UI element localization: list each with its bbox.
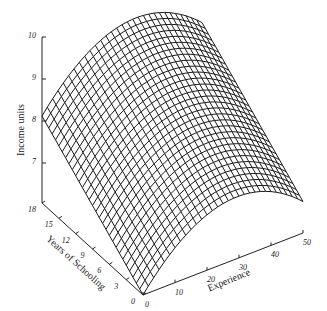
z-tick-label: 7 <box>32 157 37 166</box>
z-tick-label: 8 <box>32 115 36 124</box>
z-ticks <box>42 37 46 163</box>
y-tick-label: 0 <box>131 297 135 306</box>
x-ticks: 01020304050 <box>143 230 311 309</box>
x-tick-label: 10 <box>175 288 183 297</box>
x-tick-label: 50 <box>303 238 311 247</box>
z-tick-label: 10 <box>28 31 36 40</box>
surface-plot: 7 8 9 10 Income units 0369121518 Years o… <box>0 0 327 311</box>
y-axis-title: Years of Schooling <box>44 233 108 292</box>
y-tick-label: 15 <box>45 220 53 229</box>
x-tick-label: 40 <box>271 250 279 259</box>
z-axis-title: Income units <box>15 104 26 156</box>
y-tick-label: 3 <box>113 282 118 291</box>
z-tick-label: 9 <box>32 73 36 82</box>
y-tick-label: 18 <box>28 205 36 214</box>
x-axis-title: Experience <box>206 266 252 293</box>
x-tick-label: 0 <box>145 300 149 309</box>
